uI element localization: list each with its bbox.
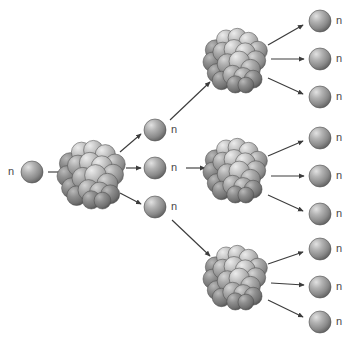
arrow-nucleus-top-to-a1	[268, 25, 303, 45]
nucleus-top-right	[203, 28, 267, 93]
nucleus-center	[57, 140, 125, 209]
neutron-g2-b3-label: n	[336, 208, 342, 219]
neutron-g2-b1-label: n	[336, 132, 342, 143]
neutron-g2-a2	[309, 48, 331, 70]
neutron-incident	[21, 161, 43, 183]
neutron-g2-a1	[309, 10, 331, 32]
neutron-incident-label: n	[8, 166, 14, 177]
arrow-center-to-n3	[120, 193, 141, 204]
neutron-g2-c3-label: n	[336, 316, 342, 327]
arrow-nucleus-bot-to-c2	[271, 283, 304, 285]
nucleon-sphere	[238, 187, 254, 203]
neutron-g1-top	[144, 119, 166, 141]
neutron-g2-c2	[309, 276, 331, 298]
arrow-nucleus-bot-to-c3	[268, 300, 303, 317]
arrow-nucleus-mid-to-b3	[268, 195, 303, 211]
nucleon-sphere	[238, 77, 254, 93]
arrow-nucleus-bot-to-c1	[268, 252, 303, 264]
nucleus-mid-right	[203, 138, 267, 203]
arrow-n3-to-nucleus-bot	[172, 220, 210, 256]
neutron-g2-a2-label: n	[336, 53, 342, 64]
nucleon-sphere	[94, 192, 111, 209]
neutron-g2-b3	[309, 203, 331, 225]
neutron-g1-bottom-label: n	[171, 201, 177, 212]
neutron-g2-a3	[309, 86, 331, 108]
neutron-g2-c1	[309, 238, 331, 260]
nucleus-bot-right	[203, 245, 267, 310]
neutron-g2-b2	[309, 165, 331, 187]
arrow-n1-to-nucleus-top	[170, 82, 210, 120]
arrow-nucleus-mid-to-b1	[268, 141, 303, 156]
neutron-g1-middle-label: n	[171, 162, 177, 173]
neutron-g2-a1-label: n	[336, 15, 342, 26]
neutron-g1-top-label: n	[171, 124, 177, 135]
neutron-g2-c3	[309, 311, 331, 333]
neutron-g2-b1	[309, 127, 331, 149]
neutron-g2-c2-label: n	[336, 281, 342, 292]
neutron-g2-b2-label: n	[336, 170, 342, 181]
arrow-center-to-n1	[120, 134, 141, 152]
neutron-g1-middle	[144, 157, 166, 179]
neutron-g2-c1-label: n	[336, 243, 342, 254]
neutron-g1-bottom	[144, 196, 166, 218]
nucleon-sphere	[238, 294, 254, 310]
arrow-nucleus-top-to-a3	[268, 78, 303, 94]
chain-reaction-diagram: nnnnnnnnnnnnn	[0, 0, 345, 339]
neutron-g2-a3-label: n	[336, 91, 342, 102]
